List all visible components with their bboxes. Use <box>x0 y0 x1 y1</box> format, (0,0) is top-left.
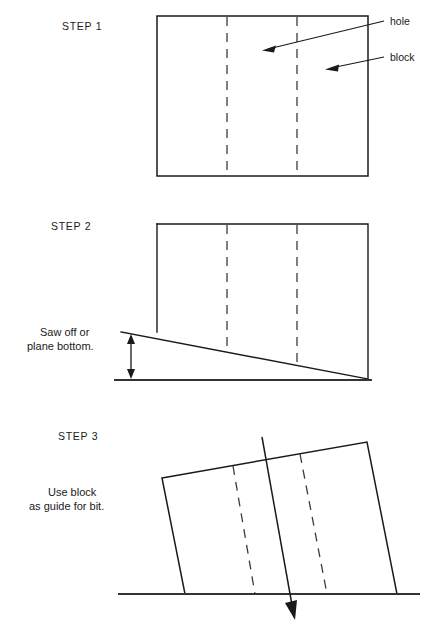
step-2-block-top-and-right <box>157 224 368 379</box>
step-2-label: STEP 2 <box>51 220 91 232</box>
step-1-block-rect <box>157 16 368 176</box>
step-3-drill-bit-arrowhead-icon <box>285 600 297 620</box>
step-1-group: STEP 1 hole block <box>62 15 415 176</box>
step-1-label: STEP 1 <box>62 20 102 32</box>
step-3-group: STEP 3 Use block as guide for bit. <box>29 430 420 620</box>
step-3-caption-line-2: as guide for bit. <box>29 500 104 512</box>
step-2-dimension-arrowhead-up-icon <box>127 334 135 344</box>
instruction-diagram-svg: STEP 1 hole block STEP 2 <box>0 0 432 634</box>
step-1-hole-callout-label: hole <box>390 15 410 27</box>
step-2-sloped-cut-line <box>121 332 368 379</box>
step-2-group: STEP 2 Saw off or plane bottom. <box>27 220 372 380</box>
step-3-label: STEP 3 <box>58 430 98 442</box>
step-3-caption-line-1: Use block <box>48 486 97 498</box>
step-3-tilted-block <box>162 442 397 594</box>
step-2-caption-line-2: plane bottom. <box>27 340 94 352</box>
diagram-canvas: STEP 1 hole block STEP 2 <box>0 0 432 634</box>
step-2-caption-line-1: Saw off or <box>40 326 90 338</box>
step-2-dimension-arrowhead-down-icon <box>127 369 135 379</box>
step-1-block-callout-label: block <box>390 51 415 63</box>
